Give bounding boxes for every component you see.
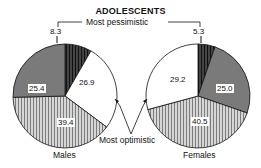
male-gray-value: 25.4 [28,84,46,93]
chart-title: ADOLESCENTS [0,6,261,16]
pessimistic-bracket-left [58,22,82,27]
female-pessimistic-value: 5.3 [193,27,204,36]
males-pie [13,44,117,148]
female-white-value: 29.2 [170,75,186,84]
male-white-value: 26.9 [79,78,95,87]
males-label: Males [53,151,76,160]
female-optimistic-value: 40.5 [191,117,209,126]
male-pessimistic-value: 8.3 [50,27,61,36]
most-pessimistic-label: Most pessimistic [86,18,148,27]
optimistic-arrows [115,99,147,134]
most-optimistic-label: Most optimistic [99,136,155,145]
females-pie [146,44,250,148]
male-optimistic-value: 39.4 [57,118,75,127]
female-gray-value: 25.0 [216,84,234,93]
females-label: Females [183,151,216,160]
